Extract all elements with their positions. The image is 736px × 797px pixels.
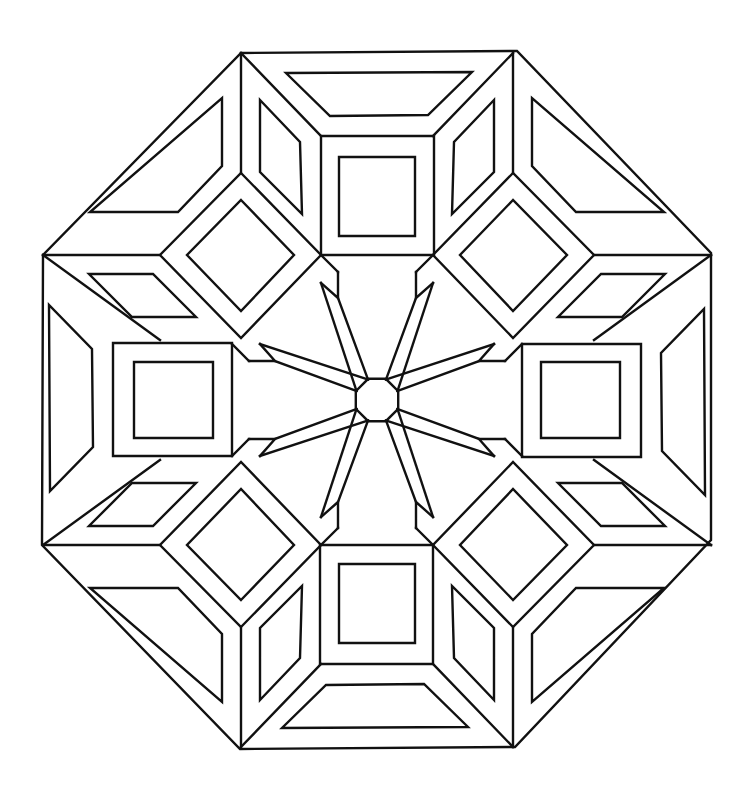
side-panel-0 — [286, 72, 472, 255]
square-inner — [339, 564, 415, 643]
quadrant-bottom-right — [433, 460, 711, 747]
corner-panel — [532, 98, 664, 212]
diamond-inner — [187, 200, 294, 311]
corner-panel — [90, 98, 222, 212]
trapezoid-panel — [49, 305, 93, 491]
diamond-inner — [187, 489, 294, 600]
trapezoid-panel — [661, 309, 705, 495]
center-star — [232, 255, 522, 545]
trapezoid-panel — [286, 72, 472, 116]
arm-edge — [275, 409, 357, 439]
arm-edge — [398, 361, 480, 391]
mandala-canvas — [0, 0, 736, 797]
quadrant-bottom-left — [43, 460, 321, 747]
mandala-drawing — [0, 0, 736, 797]
diamond-inner — [460, 489, 567, 600]
divider-line — [43, 460, 160, 545]
arm-edge — [338, 421, 368, 503]
arm-edge — [275, 361, 357, 391]
diamond-frame — [160, 173, 321, 338]
diamond-frame — [160, 462, 321, 627]
quadrant-top-left — [43, 53, 321, 340]
rhombus-panel — [452, 100, 494, 214]
arm-edge — [386, 421, 416, 503]
trapezoid-panel — [282, 684, 468, 728]
corner-panel — [532, 588, 664, 702]
quadrant-top-right — [433, 53, 711, 340]
mandala-root — [42, 51, 711, 749]
divider-line — [594, 255, 711, 340]
outer-octagon — [42, 51, 711, 749]
arm-edge — [338, 298, 368, 380]
side-panel-270 — [49, 305, 232, 491]
rhombus-panel — [260, 100, 302, 214]
divider-line — [43, 255, 160, 340]
square-inner — [134, 362, 213, 438]
square-inner — [339, 157, 415, 236]
rhombus-panel — [89, 483, 196, 526]
rhombus-panel — [89, 274, 196, 317]
side-panel-90 — [522, 309, 705, 495]
diamond-inner — [460, 200, 567, 311]
rhombus-panel — [558, 274, 665, 317]
diamond-frame — [433, 173, 594, 338]
side-panel-180 — [282, 545, 468, 728]
rhombus-panel — [260, 586, 302, 700]
square-inner — [541, 362, 620, 438]
center-octagon — [356, 379, 398, 421]
arm-edge — [398, 409, 480, 439]
rhombus-panel — [558, 483, 665, 526]
rhombus-panel — [452, 586, 494, 700]
diamond-frame — [433, 462, 594, 627]
arm-edge — [386, 298, 416, 380]
corner-panel — [90, 588, 222, 702]
divider-line — [594, 460, 711, 545]
